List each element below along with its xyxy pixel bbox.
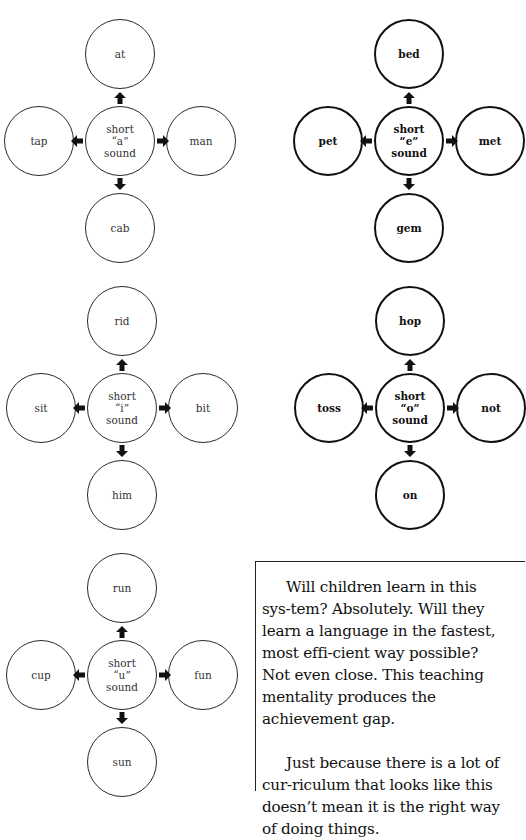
- word-label: fun: [194, 669, 211, 681]
- center-label-line: short: [106, 657, 138, 669]
- word-circle-right: fun: [168, 640, 238, 710]
- center-label-vowel: “u”: [106, 669, 138, 681]
- vowel-sound-circle: short “u” sound: [87, 640, 157, 710]
- word-circle-bottom: sun: [87, 727, 157, 797]
- word-circle-left: cup: [6, 640, 76, 710]
- commentary-paragraph: Just because there is a lot of cur-ricul…: [262, 752, 507, 840]
- word-label: cup: [31, 669, 50, 681]
- commentary-paragraph: Will children learn in this sys-tem? Abs…: [262, 576, 507, 730]
- word-circle-top: run: [87, 553, 157, 623]
- word-label: sun: [113, 756, 132, 768]
- word-label: run: [113, 582, 132, 594]
- commentary-box: Will children learn in this sys-tem? Abs…: [255, 561, 525, 791]
- center-label-line: sound: [106, 681, 138, 693]
